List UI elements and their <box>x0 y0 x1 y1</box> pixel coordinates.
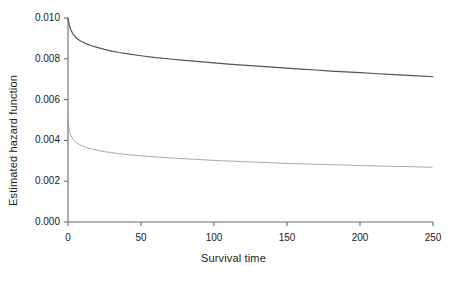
lower-hazard-curve <box>68 120 433 167</box>
x-axis-tick-label: 150 <box>262 232 312 243</box>
y-axis-ticks <box>64 18 68 222</box>
x-axis-tick-label: 200 <box>335 232 385 243</box>
y-axis-tick-label: 0.006 <box>14 94 60 105</box>
x-axis-tick-label: 0 <box>43 232 93 243</box>
axis-lines <box>68 18 433 222</box>
y-axis-tick-label: 0.004 <box>14 134 60 145</box>
x-axis-ticks <box>68 222 433 226</box>
y-axis-tick-label: 0.008 <box>14 53 60 64</box>
data-series-layer <box>68 18 433 167</box>
x-axis-tick-label: 100 <box>189 232 239 243</box>
x-axis-tick-label: 50 <box>116 232 166 243</box>
y-axis-tick-label: 0.010 <box>14 12 60 23</box>
y-axis-tick-label: 0.002 <box>14 175 60 186</box>
x-axis-tick-label: 250 <box>408 232 458 243</box>
upper-hazard-curve <box>68 18 433 77</box>
y-axis-tick-label: 0.000 <box>14 216 60 227</box>
hazard-function-chart: Estimated hazard function Survival time … <box>0 0 467 281</box>
